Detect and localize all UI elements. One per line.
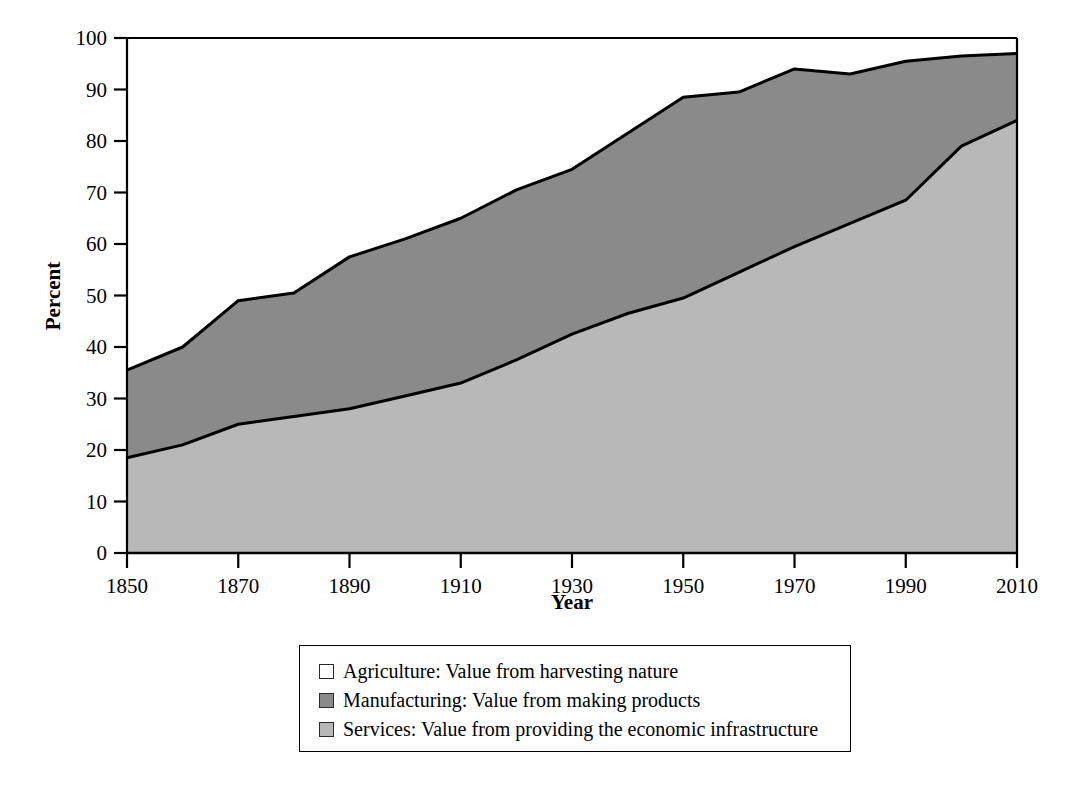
y-tick-label: 90	[86, 78, 107, 102]
y-tick-label: 30	[86, 387, 107, 411]
y-tick-label: 10	[86, 490, 107, 514]
x-tick-label: 1950	[662, 574, 704, 598]
x-tick-label: 1890	[329, 574, 371, 598]
x-tick-label: 1870	[217, 574, 259, 598]
y-tick-label: 40	[86, 335, 107, 359]
y-tick-label: 60	[86, 232, 107, 256]
agriculture-swatch-icon	[319, 664, 334, 679]
legend-item-services: Services: Value from providing the econo…	[319, 715, 850, 743]
chart-legend: Agriculture: Value from harvesting natur…	[299, 645, 851, 752]
x-axis-title: Year	[551, 590, 593, 614]
legend-label-manufacturing: Manufacturing: Value from making product…	[343, 690, 700, 710]
y-axis-ticks: 0102030405060708090100	[76, 26, 128, 565]
legend-label-services: Services: Value from providing the econo…	[343, 719, 818, 739]
x-tick-label: 2010	[996, 574, 1038, 598]
x-tick-label: 1850	[106, 574, 148, 598]
x-tick-label: 1910	[440, 574, 482, 598]
manufacturing-swatch-icon	[319, 693, 334, 708]
legend-item-manufacturing: Manufacturing: Value from making product…	[319, 686, 850, 714]
x-tick-label: 1970	[774, 574, 816, 598]
y-tick-label: 80	[86, 129, 107, 153]
y-tick-label: 0	[97, 541, 108, 565]
series-layer	[127, 38, 1017, 553]
y-tick-label: 100	[76, 26, 108, 50]
stacked-area-chart-figure: 0102030405060708090100 18501870189019101…	[0, 0, 1079, 791]
legend-label-agriculture: Agriculture: Value from harvesting natur…	[343, 661, 678, 681]
legend-item-agriculture: Agriculture: Value from harvesting natur…	[319, 657, 850, 685]
y-tick-label: 20	[86, 438, 107, 462]
y-tick-label: 70	[86, 181, 107, 205]
services-swatch-icon	[319, 722, 334, 737]
x-tick-label: 1990	[885, 574, 927, 598]
y-tick-label: 50	[86, 284, 107, 308]
y-axis-title: Percent	[41, 262, 65, 330]
